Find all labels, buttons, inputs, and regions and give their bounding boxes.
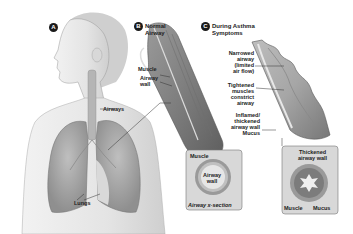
inset-b-muscle-label: Muscle — [190, 153, 209, 159]
illustration-artwork — [0, 0, 353, 234]
inset-b-airway-wall-label: Airway wall — [203, 172, 221, 184]
panel-c-title-line1: During Asthma — [212, 23, 255, 30]
inset-c-thickened-line2: airway wall — [298, 155, 327, 161]
asthma-diagram: A Airways Lungs B Normal Airway Muscle A… — [0, 0, 353, 234]
inset-c-thickened-label: Thickened airway wall — [298, 149, 327, 161]
label-muscle-normal: Muscle — [138, 66, 157, 72]
label-tightened-muscles: Tightened muscles constrict airway — [220, 82, 254, 106]
label-lungs: Lungs — [74, 200, 91, 206]
label-narrowed-airway: Narrowed airway (limited air flow) — [220, 50, 254, 74]
tightened-line4: airway — [220, 100, 254, 106]
panel-b-title-line2: Airway — [145, 30, 166, 37]
panel-b-badge: B — [134, 22, 143, 31]
inset-c-mucus-label: Mucus — [313, 205, 330, 211]
panel-a-badge: A — [49, 23, 58, 32]
label-airway-wall-normal: Airway wall — [140, 75, 158, 87]
panel-b-title-line1: Normal — [145, 23, 166, 30]
inset-c-muscle-label: Muscle — [284, 205, 303, 211]
panel-c-title: During Asthma Symptoms — [212, 23, 255, 36]
panel-c-title-line2: Symptoms — [212, 30, 255, 37]
label-airways: Airways — [103, 106, 124, 112]
label-airway-wall-line2: wall — [140, 81, 158, 87]
asthma-airway-tube — [252, 40, 330, 139]
panel-c-badge: C — [201, 22, 210, 31]
inset-b-airway-wall-line2: wall — [203, 178, 221, 184]
person-figure — [22, 13, 165, 234]
label-mucus: Mucus — [240, 130, 260, 136]
label-inflamed-wall: Inflamed/ thickened airway wall — [220, 112, 260, 130]
panel-b-title: Normal Airway — [145, 23, 166, 36]
narrowed-line4: air flow) — [220, 68, 254, 74]
inset-b-caption: Airway x-section — [188, 202, 232, 208]
